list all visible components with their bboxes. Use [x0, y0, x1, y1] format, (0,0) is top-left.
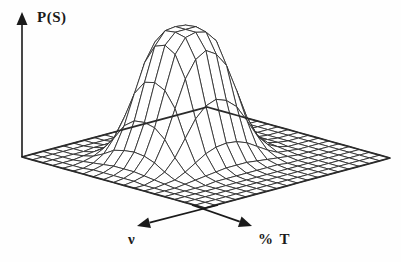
wireframe-mesh [22, 25, 390, 208]
vertical-axis-arrow [17, 12, 28, 157]
right-axis-label: % T [258, 231, 291, 248]
left-axis-arrow [137, 205, 218, 228]
right-axis-arrow [192, 205, 252, 227]
surface-plot-canvas [0, 0, 401, 262]
surface-plot-figure: P(S) ν % T [0, 0, 401, 262]
left-axis-label: ν [128, 231, 135, 248]
vertical-axis-label: P(S) [37, 9, 67, 26]
